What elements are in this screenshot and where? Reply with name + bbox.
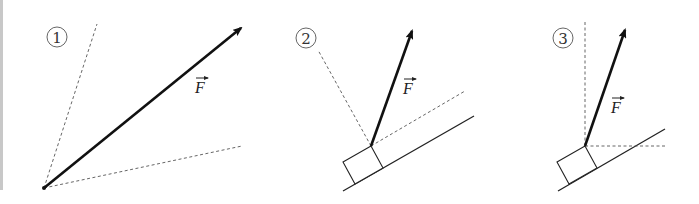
force-label: F	[402, 79, 416, 97]
svg-text:2: 2	[301, 30, 311, 48]
force-arrow-icon	[585, 30, 625, 146]
svg-text:3: 3	[558, 30, 568, 48]
svg-text:F: F	[610, 99, 621, 116]
panel-2: 2F	[296, 28, 480, 202]
dashed-component-line	[44, 146, 242, 188]
circled-number-2: 2	[296, 28, 316, 48]
svg-text:F: F	[402, 80, 413, 97]
panel-3: 3F	[553, 22, 671, 202]
force-arrow-icon	[44, 28, 241, 188]
circled-number-3: 3	[553, 28, 573, 48]
circled-number-1: 1	[47, 27, 67, 47]
svg-text:1: 1	[52, 29, 62, 47]
dashed-component-line	[318, 50, 371, 146]
force-label: F	[610, 98, 624, 116]
svg-text:F: F	[194, 79, 205, 96]
dashed-component-line	[44, 24, 97, 188]
panel-1: 1F	[42, 24, 242, 190]
origin-point	[42, 186, 46, 190]
force-label: F	[194, 78, 208, 96]
force-diagrams-canvas: 1F2F3F	[0, 0, 699, 204]
